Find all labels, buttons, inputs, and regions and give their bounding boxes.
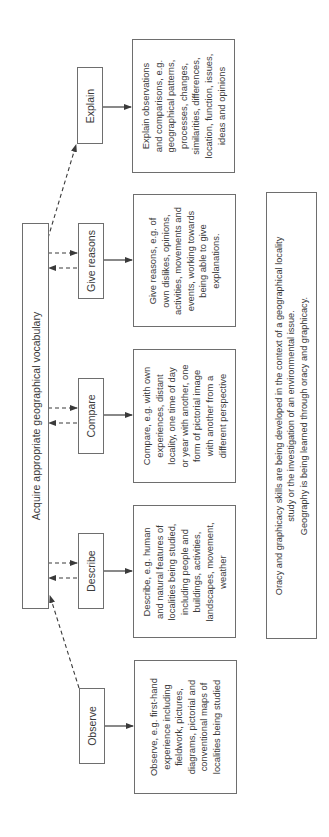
compare-detail-text: Compare, e.g. with own experiences, dist… bbox=[140, 364, 228, 467]
explain-box: Explain bbox=[77, 67, 103, 144]
give-reasons-box: Give reasons bbox=[78, 223, 104, 299]
compare-label: Compare bbox=[85, 394, 97, 437]
describe-detail-text: Describe, e.g. human and natural feature… bbox=[140, 522, 228, 621]
observe-detail-text: Observe, e.g. first-hand experience incl… bbox=[148, 678, 224, 776]
vocabulary-bar-label: Acquire appropriate geographical vocabul… bbox=[30, 312, 42, 520]
explain-label: Explain bbox=[84, 88, 96, 122]
observe-box: Observe bbox=[79, 688, 105, 764]
compare-detail-box: Compare, e.g. with own experiences, dist… bbox=[133, 349, 236, 483]
describe-detail-box: Describe, e.g. human and natural feature… bbox=[133, 505, 236, 638]
vocabulary-bar: Acquire appropriate geographical vocabul… bbox=[22, 223, 49, 609]
give-reasons-detail-text: Give reasons, e.g. of own dislikes, opin… bbox=[147, 207, 223, 315]
explain-detail-text: Explain observations and comparisons, e.… bbox=[139, 54, 227, 159]
explain-detail-box: Explain observations and comparisons, e.… bbox=[132, 39, 235, 173]
give-reasons-label: Give reasons bbox=[85, 230, 97, 292]
dashed-arrow-bar-to-explain bbox=[48, 145, 76, 238]
give-reasons-detail-box: Give reasons, e.g. of own dislikes, opin… bbox=[133, 194, 236, 327]
describe-box: Describe bbox=[78, 533, 104, 609]
note-text: Oracy and graphicacy skills are being de… bbox=[273, 236, 310, 595]
observe-label: Observe bbox=[86, 706, 98, 746]
note-box: Oracy and graphicacy skills are being de… bbox=[266, 192, 317, 639]
observe-detail-box: Observe, e.g. first-hand experience incl… bbox=[134, 660, 237, 794]
dashed-arrow-observe-to-bar bbox=[50, 596, 79, 688]
describe-label: Describe bbox=[85, 550, 97, 591]
compare-box: Compare bbox=[78, 378, 104, 454]
